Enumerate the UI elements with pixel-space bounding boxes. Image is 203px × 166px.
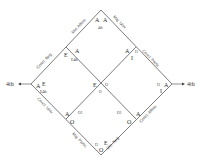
br-o3: O3 [117, 111, 122, 115]
right-arrow-label: 4th [187, 81, 195, 87]
ul-e: E [64, 52, 68, 58]
right-i: I [160, 88, 162, 94]
center-e: E [93, 82, 97, 88]
edge-label-top-right: Maj. Univ. [112, 14, 128, 30]
ur-i1: I1 [135, 50, 138, 54]
bl-o: O [70, 119, 75, 125]
br-a: A [136, 111, 141, 117]
bottom-o: O [99, 147, 104, 153]
edge-label-lower-right: Concl. Affirm [138, 103, 158, 123]
bottom-i3: I3 [95, 143, 98, 147]
left-arrowhead-icon [18, 83, 21, 86]
ul-e4th: E4th [71, 58, 78, 62]
bl-o3: O3 [78, 111, 83, 115]
bottom-e: E [104, 140, 108, 146]
left-e: E [42, 81, 46, 87]
center-i3: I3 [105, 83, 108, 87]
top-a2: A [103, 17, 108, 23]
left-a: A [36, 83, 41, 89]
right-arrowhead-icon [182, 83, 185, 86]
left-e4th: E4th [40, 90, 47, 94]
ul-a: A [75, 48, 80, 54]
edge-label-upper-right: Concl. Partic. [141, 48, 161, 69]
ur-i: I [131, 55, 133, 61]
right-i3: I3 [157, 83, 160, 87]
top-a1: A [95, 17, 100, 23]
center-o: O [99, 90, 102, 94]
bl-a: A [65, 111, 70, 117]
br-o: O [127, 119, 132, 125]
ur-a: A [125, 48, 130, 54]
top-4th: 4th [98, 26, 103, 30]
right-a: A [164, 82, 169, 88]
edge-label-top-left: Min. Affirm [70, 17, 87, 34]
edge-label-upper-left: Concl. Neg. [35, 51, 53, 70]
logic-diagram: 4th 4th Min. Affirm Maj. Univ. Concl. Ne… [0, 0, 203, 166]
left-arrow-label: 4th [6, 81, 14, 87]
